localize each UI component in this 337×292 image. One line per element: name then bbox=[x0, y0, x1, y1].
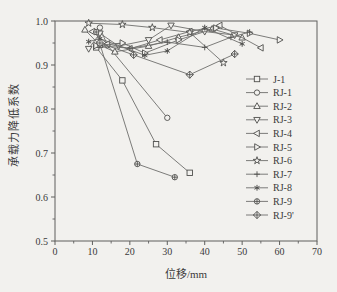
svg-text:30: 30 bbox=[162, 246, 172, 257]
svg-text:50: 50 bbox=[237, 246, 247, 257]
svg-text:RJ-3: RJ-3 bbox=[273, 114, 292, 125]
legend-item-RJ-4: RJ-4 bbox=[246, 128, 292, 139]
svg-text:1.0: 1.0 bbox=[36, 16, 49, 27]
svg-text:RJ-6: RJ-6 bbox=[273, 155, 292, 166]
svg-text:RJ-9': RJ-9' bbox=[273, 210, 294, 221]
legend-item-RJ-5: RJ-5 bbox=[246, 142, 292, 153]
svg-text:0: 0 bbox=[53, 246, 58, 257]
legend-item-RJ-2: RJ-2 bbox=[246, 101, 292, 112]
legend-item-RJ-6: RJ-6 bbox=[246, 155, 292, 166]
legend-item-RJ-3: RJ-3 bbox=[246, 114, 292, 125]
legend-item-RJ-8: RJ-8 bbox=[246, 182, 292, 193]
series-J-1 bbox=[93, 45, 192, 176]
svg-text:RJ-1: RJ-1 bbox=[273, 87, 292, 98]
svg-text:0.5: 0.5 bbox=[36, 236, 49, 247]
x-axis: 010203040506070 bbox=[53, 241, 323, 257]
chart-figure: 0102030405060700.50.60.70.80.91.0J-1RJ-1… bbox=[0, 0, 337, 292]
series-RJ-5 bbox=[94, 25, 283, 57]
legend-item-RJ-7: RJ-7 bbox=[246, 169, 292, 180]
svg-text:0.6: 0.6 bbox=[36, 192, 49, 203]
svg-text:60: 60 bbox=[275, 246, 285, 257]
legend-item-RJ-9p: RJ-9' bbox=[246, 210, 294, 221]
y-axis: 0.50.60.70.80.91.0 bbox=[36, 16, 56, 247]
svg-text:RJ-7: RJ-7 bbox=[273, 169, 292, 180]
svg-text:RJ-2: RJ-2 bbox=[273, 101, 292, 112]
y-axis-title: 承载力降低系数 bbox=[5, 83, 21, 167]
svg-text:0.8: 0.8 bbox=[36, 104, 49, 115]
x-axis-title: 位移/mm bbox=[165, 265, 207, 281]
legend-item-RJ-9: RJ-9 bbox=[246, 196, 292, 207]
svg-text:RJ-9: RJ-9 bbox=[273, 196, 292, 207]
svg-text:RJ-4: RJ-4 bbox=[273, 128, 292, 139]
chart-canvas: 0102030405060700.50.60.70.80.91.0J-1RJ-1… bbox=[0, 0, 337, 292]
legend-item-RJ-1: RJ-1 bbox=[246, 87, 292, 98]
legend-item-J-1: J-1 bbox=[246, 74, 285, 85]
legend: J-1RJ-1RJ-2RJ-3RJ-4RJ-5RJ-6RJ-7RJ-8RJ-9R… bbox=[246, 74, 294, 221]
svg-text:J-1: J-1 bbox=[273, 74, 285, 85]
svg-text:0.9: 0.9 bbox=[36, 60, 49, 71]
svg-text:40: 40 bbox=[200, 246, 210, 257]
svg-text:10: 10 bbox=[87, 246, 97, 257]
svg-text:RJ-5: RJ-5 bbox=[273, 142, 292, 153]
svg-text:RJ-8: RJ-8 bbox=[273, 182, 292, 193]
svg-text:0.7: 0.7 bbox=[36, 148, 49, 159]
svg-text:20: 20 bbox=[125, 246, 135, 257]
svg-text:70: 70 bbox=[312, 246, 322, 257]
